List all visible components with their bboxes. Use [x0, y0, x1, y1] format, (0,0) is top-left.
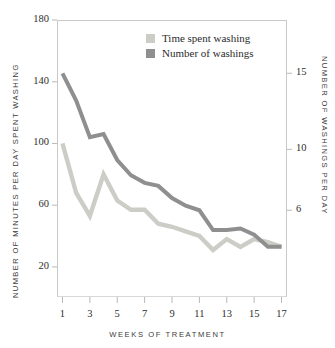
x-tick-label: 5: [108, 308, 126, 319]
legend-label-number-of-washings: Number of washings: [162, 47, 254, 59]
y-tick-label-right: 6: [296, 203, 318, 214]
y-tick-label-right: 15: [296, 66, 318, 77]
legend-label-time-spent-washing: Time spent washing: [162, 32, 250, 44]
y-tick-label-left: 180: [23, 13, 49, 24]
data-series-group: [62, 73, 281, 250]
legend-swatch-light: [146, 34, 155, 43]
y-tick-label-left: 140: [23, 75, 49, 86]
y-tick-label-left: 100: [23, 136, 49, 147]
left-axis-title: NUMBER OF MINUTES PER DAY SPENT WASHING: [11, 63, 20, 298]
plot-canvas: [57, 20, 287, 297]
x-tick-label: 17: [273, 308, 291, 319]
chart-figure: NUMBER OF MINUTES PER DAY SPENT WASHING …: [0, 0, 335, 348]
x-tick-label: 7: [136, 308, 154, 319]
x-tick-label: 1: [53, 308, 71, 319]
y-tick-label-left: 60: [23, 198, 49, 209]
x-tick-label: 15: [245, 308, 263, 319]
x-tick-label: 11: [190, 308, 208, 319]
x-axis-title: WEEKS OF TREATMENT: [0, 330, 335, 339]
chart-legend: Time spent washing Number of washings: [146, 31, 254, 61]
y-tick-label-right: 10: [296, 142, 318, 153]
x-tick-label: 3: [81, 308, 99, 319]
x-tick-label: 13: [218, 308, 236, 319]
legend-swatch-dark: [146, 49, 155, 58]
right-axis-title: NUMBER OF WASHINGS PER DAY: [320, 56, 329, 215]
x-tick-label: 9: [163, 308, 181, 319]
legend-item-number-of-washings: Number of washings: [146, 46, 254, 60]
axis-ticks: [52, 20, 292, 303]
legend-item-time-spent-washing: Time spent washing: [146, 31, 254, 45]
series-line-number-of-washings: [62, 73, 281, 247]
y-tick-label-left: 20: [23, 260, 49, 271]
